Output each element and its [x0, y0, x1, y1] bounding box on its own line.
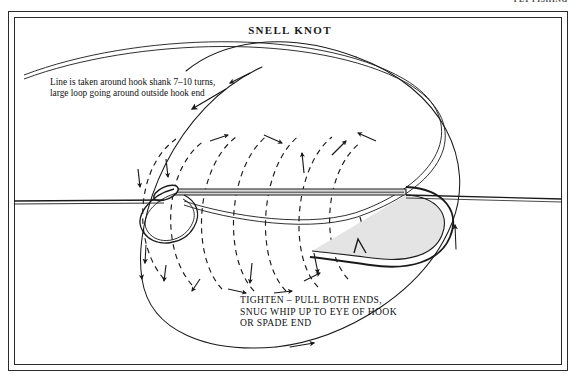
large-loop-arrow-left	[145, 245, 146, 263]
running-header: FLY FISHING	[514, 0, 568, 3]
wrap-turn-6	[299, 137, 332, 287]
wrap-turn-7	[330, 143, 360, 279]
line-group	[14, 189, 562, 243]
large-loop-arrow-top	[230, 73, 250, 83]
annotation-top: Line is taken around hook shank 7–10 tur…	[50, 77, 215, 100]
loop-double-strand	[24, 42, 445, 225]
large-loop-arrow-bottom	[290, 343, 314, 347]
hook-bend-inner	[312, 195, 444, 259]
large-loop-arrow-right	[455, 225, 456, 249]
standing-line-left	[14, 200, 164, 201]
annotation-bottom: TIGHTEN – PULL BOTH ENDS, SNUG WHIP UP T…	[240, 294, 397, 329]
wrap-turn-2	[171, 141, 204, 285]
standing-line-left-shadow	[14, 203, 164, 204]
wrap-turn-5	[265, 135, 300, 291]
illustration-page: FLY FISHING SNELL KNOT	[0, 0, 580, 382]
wrap-turn-4	[233, 135, 268, 291]
